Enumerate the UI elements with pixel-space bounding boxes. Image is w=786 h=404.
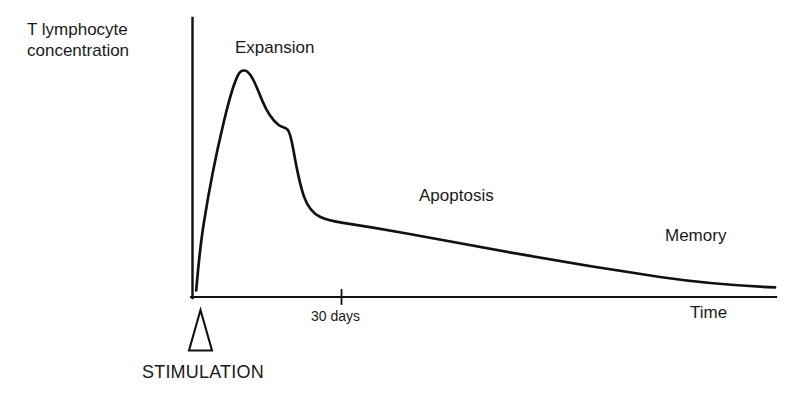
x-axis-tick-label: 30 days — [311, 308, 360, 325]
stimulation-triangle-icon — [189, 310, 212, 351]
y-axis-label-line-1: T lymphocyte — [27, 20, 128, 39]
y-axis-label-line-2: concentration — [27, 41, 129, 60]
annotation-expansion: Expansion — [235, 38, 314, 59]
annotation-memory: Memory — [665, 226, 726, 247]
annotation-apoptosis: Apoptosis — [419, 186, 494, 207]
annotation-stimulation: STIMULATION — [142, 362, 264, 384]
x-axis-label: Time — [690, 303, 727, 324]
figure-root: T lymphocyteconcentration Expansion Apop… — [0, 0, 786, 404]
t-cell-response-curve — [196, 71, 775, 291]
y-axis-label: T lymphocyteconcentration — [27, 20, 129, 61]
